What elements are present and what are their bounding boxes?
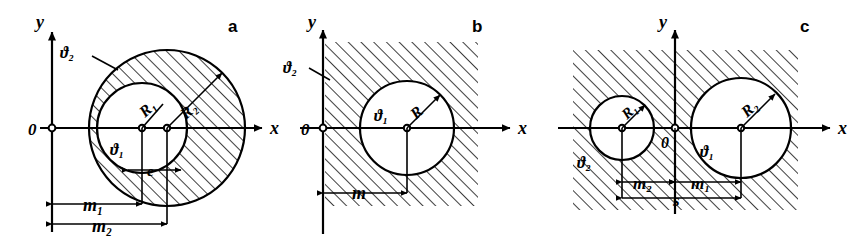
panel-a-letter: a	[228, 17, 238, 36]
panel-c-region-outer-label: ϑ₂	[577, 154, 591, 171]
panel-c-dim-span-label: s	[672, 191, 680, 210]
panel-b-dim-label: m	[352, 183, 366, 203]
panel-a-x-axis-label: x	[269, 118, 279, 138]
panel-a-y-axis-label: y	[34, 12, 45, 32]
figure-canvas: y x 0 ϑ₂ ϑ₁ R₁ R₂ e m₁ m₂ a y x 0 ϑ₂ ϑ₁ …	[0, 0, 867, 250]
panel-c: y x 0 ϑ₂ ϑ₁ R₁ R₂ m₂ m₁ s c	[558, 12, 847, 214]
panel-c-dim-right-label: m₁	[691, 174, 710, 193]
technical-figure: y x 0 ϑ₂ ϑ₁ R₁ R₂ e m₁ m₂ a y x 0 ϑ₂ ϑ₁ …	[0, 0, 867, 250]
panel-c-dim-left-label: m₂	[633, 174, 652, 193]
panel-b-y-axis-label: y	[306, 12, 317, 32]
panel-a-dim-inner-label: m₁	[83, 195, 103, 215]
panel-b-origin-marker	[320, 125, 327, 132]
panel-a-origin-marker	[49, 125, 56, 132]
panel-b-region-inner-label: ϑ₁	[374, 107, 388, 124]
panel-a-origin-label: 0	[28, 120, 37, 139]
panel-a-region-inner-label: ϑ₁	[110, 141, 124, 158]
panel-c-region-inner-label: ϑ₁	[700, 143, 714, 160]
panel-b-x-axis-label: x	[517, 118, 527, 138]
panel-a: y x 0 ϑ₂ ϑ₁ R₁ R₂ e m₁ m₂ a	[28, 12, 320, 236]
panel-b-origin-label: 0	[301, 120, 310, 139]
panel-c-y-axis-label: y	[657, 12, 668, 32]
panel-b-region-outer-label: ϑ₂	[283, 59, 297, 76]
panel-c-letter: c	[800, 17, 809, 36]
panel-a-dim-outer-label: m₂	[92, 216, 112, 236]
panel-a-region-outer-label: ϑ₂	[60, 44, 74, 61]
panel-c-origin-label: 0	[661, 134, 669, 151]
panel-c-hatched-region	[570, 46, 802, 214]
panel-b-hatched-region	[320, 38, 485, 213]
panel-b-letter: b	[472, 17, 482, 36]
panel-a-eccentricity-label: e	[147, 163, 154, 179]
panel-c-x-axis-label: x	[837, 118, 847, 138]
